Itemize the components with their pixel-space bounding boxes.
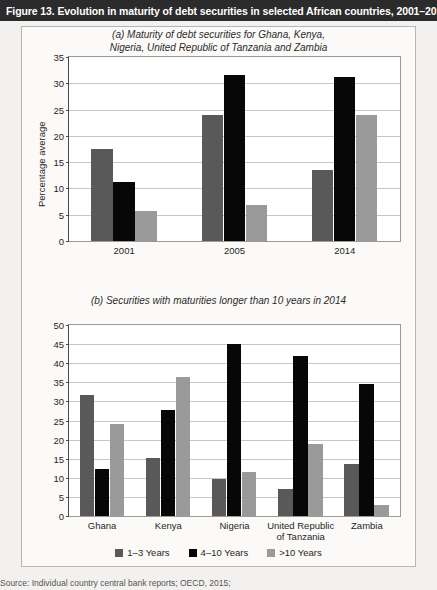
legend-item-0[interactable]: 1–3 Years — [115, 547, 169, 558]
bar-10Years-4 — [374, 505, 388, 516]
x-tick-label: Nigeria — [219, 520, 249, 531]
y-tick-label: 40 — [53, 358, 64, 369]
y-tick-mark — [66, 136, 69, 137]
y-tick-label: 35 — [53, 377, 64, 388]
bar-13Years-1 — [202, 115, 223, 241]
y-tick-label: 20 — [53, 434, 64, 445]
y-tick-mark — [66, 325, 69, 326]
chart-a-y-axis-label: Percentage average — [36, 121, 47, 207]
bar-410Years-1 — [224, 75, 245, 241]
legend-label: 4–10 Years — [201, 547, 249, 558]
y-tick-label: 5 — [59, 209, 64, 220]
y-tick-label: 0 — [59, 236, 64, 247]
chart-a-title: (a) Maturity of debt securities for Ghan… — [22, 29, 415, 54]
legend-label: >10 Years — [279, 547, 322, 558]
y-tick-label: 30 — [53, 78, 64, 89]
bar-13Years-0 — [91, 149, 112, 241]
bar-13Years-2 — [312, 170, 333, 241]
x-tick-label: 2001 — [114, 245, 135, 256]
y-tick-mark — [66, 188, 69, 189]
y-tick-mark — [66, 421, 69, 422]
y-tick-mark — [66, 215, 69, 216]
y-tick-mark — [66, 363, 69, 364]
bar-410Years-3 — [293, 356, 307, 516]
x-tick-label-line1: Nigeria — [219, 520, 249, 531]
bar-410Years-0 — [113, 182, 134, 241]
figure-header: Figure 13. Evolution in maturity of debt… — [0, 0, 437, 21]
bar-13Years-4 — [344, 464, 358, 516]
legend-label: 1–3 Years — [127, 547, 169, 558]
x-tick-label-line1: Kenya — [155, 520, 182, 531]
legend-item-1[interactable]: 4–10 Years — [189, 547, 249, 558]
y-tick-mark — [66, 382, 69, 383]
y-tick-mark — [66, 344, 69, 345]
chart-legend: 1–3 Years4–10 Years>10 Years — [22, 547, 415, 558]
x-tick-label: Ghana — [88, 520, 117, 531]
bar-10Years-2 — [356, 115, 377, 241]
bar-13Years-1 — [146, 458, 160, 516]
figure-body: (a) Maturity of debt securities for Ghan… — [21, 26, 416, 567]
y-tick-label: 0 — [59, 511, 64, 522]
y-tick-label: 20 — [53, 130, 64, 141]
y-tick-label: 45 — [53, 339, 64, 350]
y-tick-mark — [66, 57, 69, 58]
y-tick-label: 15 — [53, 453, 64, 464]
x-tick-label-line1: Ghana — [88, 520, 117, 531]
bar-10Years-0 — [110, 424, 124, 516]
legend-swatch-icon — [115, 549, 123, 557]
bar-10Years-3 — [308, 444, 322, 516]
legend-item-2[interactable]: >10 Years — [267, 547, 322, 558]
bar-410Years-4 — [359, 384, 373, 516]
figure-source: Source: Individual country central bank … — [0, 578, 437, 590]
chart-a-plot-area: 05101520253035200120052014 — [68, 56, 401, 242]
chart-panel-a: (a) Maturity of debt securities for Ghan… — [22, 27, 415, 293]
chart-a-title-line1: (a) Maturity of debt securities for Ghan… — [22, 29, 415, 42]
x-tick-label: Zambia — [351, 520, 383, 531]
x-tick-label: United Republicof Tanzania — [267, 520, 334, 542]
y-tick-label: 10 — [53, 183, 64, 194]
y-tick-mark — [66, 497, 69, 498]
bar-410Years-1 — [161, 410, 175, 516]
bar-410Years-2 — [334, 77, 355, 241]
x-tick-label: 2014 — [334, 245, 355, 256]
bar-13Years-2 — [212, 479, 226, 516]
y-tick-mark — [66, 83, 69, 84]
y-tick-label: 25 — [53, 104, 64, 115]
y-tick-mark — [66, 241, 69, 242]
bar-410Years-2 — [227, 344, 241, 516]
chart-b-plot-area: 05101520253035404550GhanaKenyaNigeriaUni… — [68, 324, 401, 517]
y-tick-label: 25 — [53, 415, 64, 426]
y-tick-mark — [66, 440, 69, 441]
chart-a-title-line2: Nigeria, United Republic of Tanzania and… — [22, 42, 415, 55]
chart-panel-b: (b) Securities with maturities longer th… — [22, 293, 415, 566]
y-tick-mark — [66, 516, 69, 517]
y-tick-label: 30 — [53, 396, 64, 407]
y-tick-mark — [66, 401, 69, 402]
legend-swatch-icon — [189, 549, 197, 557]
chart-b-title-line1: (b) Securities with maturities longer th… — [22, 295, 415, 308]
legend-swatch-icon — [267, 549, 275, 557]
y-tick-mark — [66, 459, 69, 460]
y-tick-mark — [66, 478, 69, 479]
y-tick-label: 10 — [53, 472, 64, 483]
y-tick-mark — [66, 162, 69, 163]
x-tick-label: Kenya — [155, 520, 182, 531]
y-tick-label: 35 — [53, 52, 64, 63]
y-tick-label: 15 — [53, 157, 64, 168]
chart-b-title: (b) Securities with maturities longer th… — [22, 295, 415, 308]
x-tick-label-line1: United Republic — [267, 520, 334, 531]
figure-title: Figure 13. Evolution in maturity of debt… — [0, 5, 437, 17]
bar-13Years-3 — [278, 489, 292, 517]
y-tick-label: 50 — [53, 320, 64, 331]
x-tick-label-line2: of Tanzania — [267, 531, 334, 542]
bar-13Years-0 — [80, 395, 94, 516]
y-tick-mark — [66, 110, 69, 111]
x-tick-label-line1: Zambia — [351, 520, 383, 531]
bar-10Years-1 — [176, 377, 190, 516]
bar-410Years-0 — [95, 469, 109, 516]
bar-10Years-2 — [242, 472, 256, 516]
bar-10Years-1 — [246, 205, 267, 241]
y-tick-label: 5 — [59, 491, 64, 502]
x-tick-label: 2005 — [224, 245, 245, 256]
bar-10Years-0 — [135, 211, 156, 241]
